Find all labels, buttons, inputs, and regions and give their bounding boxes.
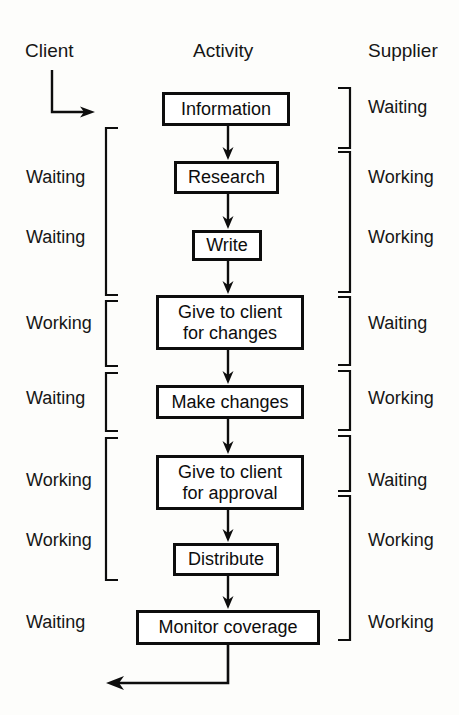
client-bracket-4 <box>106 438 118 580</box>
activity-box-label: Distribute <box>184 549 268 569</box>
connector-approval-distribute <box>223 510 234 542</box>
activity-box-give-to-client-changes[interactable]: Give to clientfor changes <box>156 295 304 350</box>
activity-box-write[interactable]: Write <box>192 230 262 261</box>
client-state-changes: Working <box>26 313 92 334</box>
client-bracket-1 <box>106 128 118 295</box>
supplier-bracket-1 <box>338 88 350 148</box>
activity-box-label-line2: for approval <box>178 483 282 503</box>
client-state-approval: Working <box>26 470 92 491</box>
connector-changes-make <box>223 350 234 384</box>
client-bracket-2 <box>106 301 118 366</box>
connector-information-research <box>223 126 234 160</box>
supplier-state-approval: Waiting <box>368 470 427 491</box>
connector-make-approval <box>223 419 234 454</box>
activity-box-monitor-coverage[interactable]: Monitor coverage <box>136 610 320 645</box>
supplier-state-monitor: Working <box>368 612 434 633</box>
activity-box-label: Give to clientfor approval <box>174 462 286 502</box>
connector-group <box>223 126 234 609</box>
client-state-make: Waiting <box>26 388 85 409</box>
activity-box-label: Give to clientfor changes <box>174 302 286 342</box>
supplier-bracket-3 <box>338 297 350 365</box>
supplier-bracket-6 <box>338 496 350 640</box>
activity-box-research[interactable]: Research <box>174 161 279 194</box>
supplier-state-changes: Waiting <box>368 313 427 334</box>
column-header-supplier: Supplier <box>368 40 438 62</box>
supplier-state-make: Working <box>368 388 434 409</box>
activity-box-label: Monitor coverage <box>154 617 301 637</box>
supplier-state-write: Working <box>368 227 434 248</box>
activity-box-label-line2: for changes <box>178 323 282 343</box>
connector-research-write <box>223 194 234 229</box>
supplier-state-research: Working <box>368 167 434 188</box>
activity-box-label: Research <box>184 167 269 187</box>
feedback-return-arrow <box>106 645 228 690</box>
client-bracket-3 <box>106 373 118 431</box>
column-header-activity: Activity <box>193 40 253 62</box>
supplier-bracket-5 <box>338 436 350 491</box>
activity-box-give-to-client-approval[interactable]: Give to clientfor approval <box>156 455 304 510</box>
client-state-write: Waiting <box>26 227 85 248</box>
client-entry-arrow <box>52 70 95 118</box>
client-state-distribute: Working <box>26 530 92 551</box>
activity-box-label: Write <box>202 235 252 255</box>
client-state-research: Waiting <box>26 167 85 188</box>
supplier-bracket-4 <box>338 371 350 430</box>
activity-box-distribute[interactable]: Distribute <box>173 543 279 576</box>
activity-box-label-line1: Give to client <box>178 302 282 322</box>
connector-write-changes <box>223 261 234 294</box>
column-header-client: Client <box>25 40 74 62</box>
supplier-state-information: Waiting <box>368 97 427 118</box>
client-state-monitor: Waiting <box>26 612 85 633</box>
process-flow-diagram: Client Activity Supplier InformationRese… <box>0 0 459 715</box>
activity-box-label: Make changes <box>167 392 292 412</box>
activity-box-label-line1: Give to client <box>178 462 282 482</box>
supplier-bracket-2 <box>338 152 350 292</box>
activity-box-label: Information <box>177 99 275 119</box>
activity-box-information[interactable]: Information <box>162 92 290 126</box>
supplier-state-distribute: Working <box>368 530 434 551</box>
connector-distribute-monitor <box>223 576 234 609</box>
activity-box-make-changes[interactable]: Make changes <box>156 385 304 419</box>
